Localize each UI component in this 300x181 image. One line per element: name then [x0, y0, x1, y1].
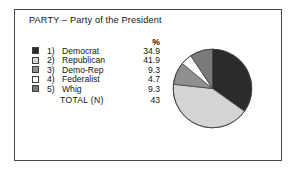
table-row: 4) Federalist 4.7 — [30, 75, 160, 84]
legend-swatch-republican — [32, 57, 39, 64]
row-index: 3) — [47, 65, 55, 75]
total-row: TOTAL (N) 43 — [30, 95, 160, 105]
total-label: TOTAL (N) — [60, 95, 104, 105]
row-index: 4) — [47, 74, 55, 84]
row-label: Whig — [62, 84, 82, 94]
legend-swatch-federalist — [32, 76, 39, 83]
row-label: Demo-Rep — [62, 65, 104, 75]
row-percent: 4.7 — [148, 74, 160, 84]
row-label: Democrat — [62, 46, 99, 56]
page-title: PARTY – Party of the President — [29, 15, 162, 25]
table-row: 3) Demo-Rep 9.3 — [30, 65, 160, 74]
pie-chart-svg — [172, 48, 253, 129]
row-index: 5) — [47, 84, 55, 94]
row-percent: 34.9 — [143, 46, 160, 56]
row-label: Federalist — [62, 74, 100, 84]
row-percent: 9.3 — [148, 84, 160, 94]
row-index: 1) — [47, 46, 55, 56]
table-row: 1) Democrat 34.9 — [30, 46, 160, 55]
row-label: Republican — [62, 55, 105, 65]
row-percent: 41.9 — [143, 55, 160, 65]
row-index: 2) — [47, 55, 55, 65]
figure-panel: PARTY – Party of the President % 1) Demo… — [0, 0, 300, 181]
legend-swatch-whig — [32, 85, 39, 92]
table-row: 2) Republican 41.9 — [30, 56, 160, 65]
pie-chart — [172, 48, 253, 129]
table-row: 5) Whig 9.3 — [30, 84, 160, 93]
legend-swatch-democrat — [32, 47, 39, 54]
legend-swatch-demo-rep — [32, 66, 39, 73]
row-percent: 9.3 — [148, 65, 160, 75]
total-value: 43 — [150, 95, 160, 105]
